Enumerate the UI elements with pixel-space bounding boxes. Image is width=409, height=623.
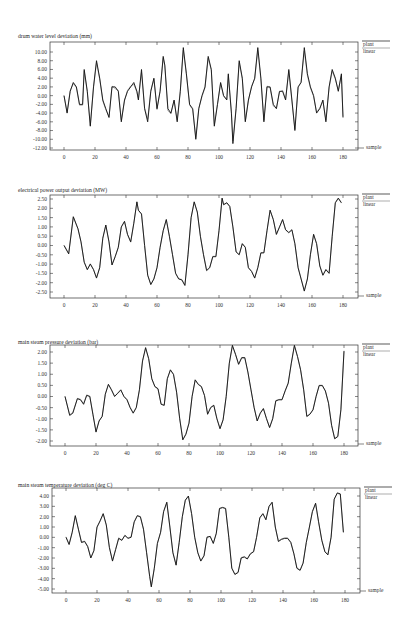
chart-plot-1: 2.502.001.501.000.500.00-0.50-1.00-1.50-… <box>36 194 390 308</box>
y-tick-label: 0.50 <box>38 382 48 388</box>
y-tick-label: 8.00 <box>38 58 48 64</box>
x-tick-label: 20 <box>92 154 98 160</box>
x-tick-label: 120 <box>246 154 254 160</box>
chart-plot-2: 2.001.501.000.500.00-0.50-1.00-1.50-2.00… <box>36 344 390 456</box>
x-tick-label: 180 <box>340 450 348 456</box>
y-tick-label: 2.00 <box>38 205 48 211</box>
legend-label-linear: linear <box>363 48 375 54</box>
x-axis-label: sample <box>368 587 384 593</box>
y-tick-label: 0.00 <box>40 534 50 540</box>
y-tick-label: -2.00 <box>38 555 50 561</box>
y-tick-label: 2.50 <box>38 196 48 202</box>
x-tick-label: 100 <box>215 154 223 160</box>
x-tick-label: 140 <box>279 597 287 603</box>
chart-plot-3: 4.003.002.001.000.00-1.00-2.00-3.00-4.00… <box>38 487 392 603</box>
x-tick-label: 140 <box>277 302 285 308</box>
y-tick-label: -2.00 <box>36 438 48 444</box>
x-tick-label: 140 <box>277 154 285 160</box>
x-tick-label: 160 <box>310 597 318 603</box>
series-line-plant <box>64 48 343 144</box>
x-tick-label: 140 <box>278 450 286 456</box>
charts-canvas: 10.008.006.004.002.000.00-2.00-4.00-6.00… <box>0 0 409 623</box>
y-tick-label: 0.00 <box>38 93 48 99</box>
legend-label-linear: linear <box>363 201 375 207</box>
y-tick-label: 2.00 <box>38 349 48 355</box>
y-tick-label: -1.00 <box>36 416 48 422</box>
y-tick-label: -12.00 <box>33 145 47 151</box>
x-tick-label: 100 <box>215 302 223 308</box>
y-tick-label: -1.50 <box>36 427 48 433</box>
y-tick-label: 10.00 <box>35 49 47 55</box>
y-tick-label: 1.00 <box>38 371 48 377</box>
x-tick-label: 0 <box>64 450 67 456</box>
legend-label-plant: plant <box>363 344 374 350</box>
x-tick-label: 80 <box>187 597 193 603</box>
x-axis-label: sample <box>366 440 382 446</box>
y-tick-label: -8.00 <box>36 127 48 133</box>
x-tick-label: 20 <box>92 302 98 308</box>
x-tick-label: 80 <box>185 154 191 160</box>
y-tick-label: -2.50 <box>36 289 48 295</box>
y-tick-label: -3.00 <box>38 565 50 571</box>
series-line-linear <box>65 346 344 439</box>
y-tick-label: -2.00 <box>36 280 48 286</box>
x-tick-label: 0 <box>65 597 68 603</box>
series-line-linear <box>64 199 341 291</box>
y-tick-label: 1.50 <box>38 215 48 221</box>
x-tick-label: 0 <box>63 302 66 308</box>
series-line-linear <box>66 493 343 586</box>
x-tick-label: 60 <box>156 597 162 603</box>
y-tick-label: 0.50 <box>38 233 48 239</box>
x-tick-label: 120 <box>246 302 254 308</box>
y-tick-label: 6.00 <box>38 66 48 72</box>
x-tick-label: 120 <box>247 450 255 456</box>
x-tick-label: 20 <box>93 450 99 456</box>
x-axis-label: sample <box>366 292 382 298</box>
y-tick-label: -10.00 <box>33 136 47 142</box>
y-tick-label: -2.00 <box>36 101 48 107</box>
x-axis-label: sample <box>366 144 382 150</box>
legend-label-plant: plant <box>365 487 376 493</box>
y-tick-label: 2.00 <box>40 514 50 520</box>
legend-label-linear: linear <box>363 351 375 357</box>
y-tick-label: -1.00 <box>36 261 48 267</box>
y-tick-label: -4.00 <box>38 576 50 582</box>
x-tick-label: 160 <box>308 302 316 308</box>
plot-frame <box>52 488 360 593</box>
series-line-plant <box>65 345 344 440</box>
y-tick-label: -5.00 <box>38 586 50 592</box>
y-tick-label: -0.50 <box>36 405 48 411</box>
x-tick-label: 100 <box>216 450 224 456</box>
y-tick-label: 4.00 <box>40 493 50 499</box>
series-line-linear <box>64 50 343 141</box>
y-tick-label: -6.00 <box>36 119 48 125</box>
x-tick-label: 180 <box>339 154 347 160</box>
y-tick-label: 3.00 <box>40 503 50 509</box>
x-tick-label: 180 <box>341 597 349 603</box>
x-tick-label: 160 <box>309 450 317 456</box>
y-tick-label: -4.00 <box>36 110 48 116</box>
series-line-plant <box>64 198 341 291</box>
x-tick-label: 40 <box>123 154 129 160</box>
x-tick-label: 40 <box>123 302 129 308</box>
x-tick-label: 60 <box>154 302 160 308</box>
x-tick-label: 80 <box>186 450 192 456</box>
legend-label-linear: linear <box>365 494 377 500</box>
legend-label-plant: plant <box>363 194 374 200</box>
x-tick-label: 40 <box>125 597 131 603</box>
x-tick-label: 60 <box>155 450 161 456</box>
x-tick-label: 120 <box>248 597 256 603</box>
y-tick-label: 1.50 <box>38 360 48 366</box>
y-tick-label: 4.00 <box>38 75 48 81</box>
x-tick-label: 100 <box>217 597 225 603</box>
x-tick-label: 60 <box>154 154 160 160</box>
x-tick-label: 180 <box>339 302 347 308</box>
y-tick-label: 0.00 <box>38 242 48 248</box>
x-tick-label: 20 <box>94 597 100 603</box>
x-tick-label: 40 <box>124 450 130 456</box>
x-tick-label: 0 <box>63 154 66 160</box>
series-line-plant <box>66 493 343 587</box>
plot-frame <box>50 42 358 150</box>
y-tick-label: 1.00 <box>38 224 48 230</box>
y-tick-label: 0.00 <box>38 393 48 399</box>
